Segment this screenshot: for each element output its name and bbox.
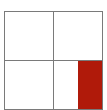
cell-bottom-left [5, 61, 53, 109]
grid-2x2 [4, 11, 103, 110]
red-filled-region [78, 61, 102, 109]
cell-top-right [54, 12, 102, 60]
cell-top-left [5, 12, 53, 60]
